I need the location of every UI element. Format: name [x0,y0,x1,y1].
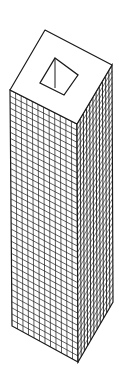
tower-illustration [0,0,119,386]
left-facade-grid [10,90,78,362]
